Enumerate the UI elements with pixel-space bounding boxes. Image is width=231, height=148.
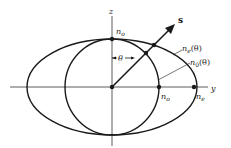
n-e-axis-label: ne bbox=[196, 92, 205, 102]
n-e-theta-label: ne(θ) bbox=[182, 44, 202, 54]
axis-no-point bbox=[157, 85, 161, 89]
top-no-point bbox=[110, 37, 114, 41]
n-0-theta-leader bbox=[158, 63, 190, 80]
s-label: s bbox=[178, 15, 183, 25]
theta-label: θ bbox=[118, 54, 123, 63]
circle-intersection-point bbox=[144, 51, 148, 55]
axis-ne-point bbox=[192, 85, 196, 89]
theta-arrowhead-left-icon bbox=[112, 57, 116, 60]
y-axis-label: y bbox=[210, 84, 216, 93]
n-o-top-label: no bbox=[116, 27, 125, 37]
center-point bbox=[110, 85, 114, 89]
index-ellipsoid-diagram: s z y no θ ne(θ) n0(θ) no ne bbox=[0, 0, 231, 148]
n-o-axis-label: no bbox=[161, 92, 170, 102]
theta-arrowhead-right-icon bbox=[131, 57, 135, 60]
n-e-theta-leader bbox=[173, 50, 182, 55]
n-0-theta-label: n0(θ) bbox=[190, 58, 210, 68]
ellipse-intersection-point bbox=[152, 43, 156, 47]
z-axis-label: z bbox=[108, 7, 114, 16]
